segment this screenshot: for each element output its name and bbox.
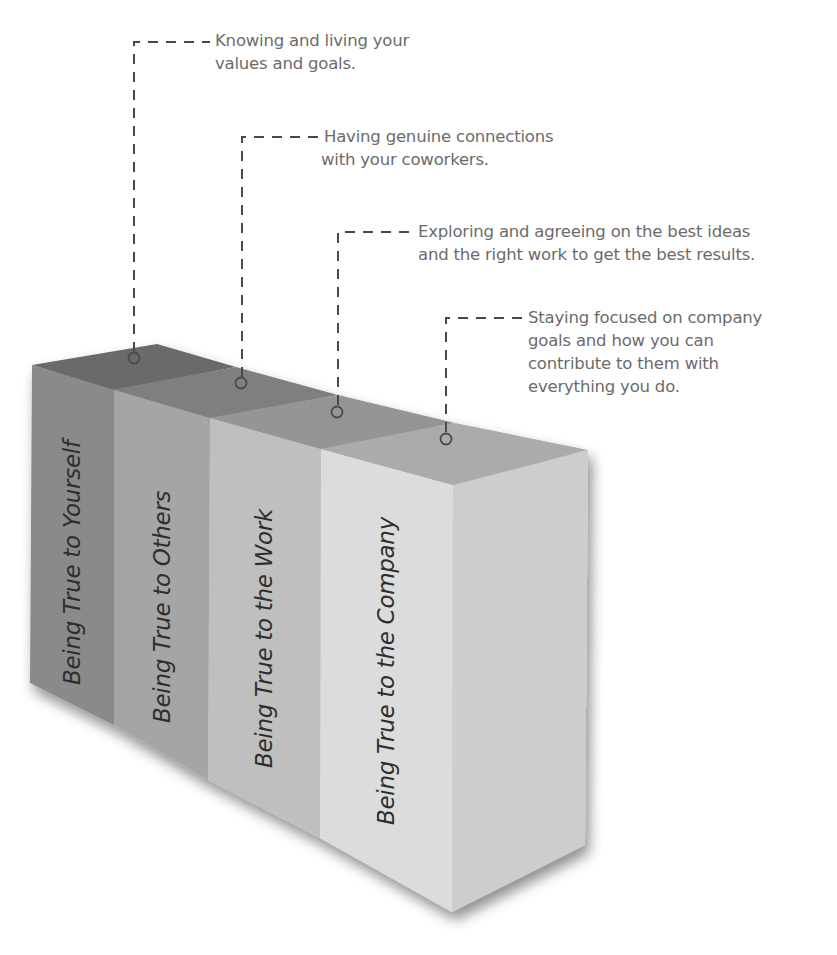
block-2-label: Being True to Others — [149, 490, 175, 723]
callout-2: Having genuine connections with your cow… — [324, 125, 553, 171]
callout-2-line-2: with your coworkers. — [321, 148, 553, 171]
callout-3: Exploring and agreeing on the best ideas… — [418, 220, 755, 266]
callout-2-line-1: Having genuine connections — [324, 125, 553, 148]
callout-4-line-2: goals and how you can — [528, 329, 762, 352]
block-4-label: Being True to the Company — [373, 516, 399, 825]
leader-line-3 — [338, 232, 412, 405]
callout-1-line-1: Knowing and living your — [215, 29, 409, 52]
block-stack — [30, 344, 588, 912]
block-4-side-face — [452, 450, 588, 912]
callout-1: Knowing and living your values and goals… — [215, 29, 409, 75]
callout-3-line-1: Exploring and agreeing on the best ideas — [418, 220, 755, 243]
leader-line-1 — [134, 42, 210, 352]
callout-1-line-2: values and goals. — [215, 52, 409, 75]
callout-4: Staying focused on company goals and how… — [528, 306, 762, 398]
leader-line-4 — [446, 318, 522, 432]
callout-3-line-2: and the right work to get the best resul… — [418, 243, 755, 266]
callout-4-line-3: contribute to them with — [528, 352, 762, 375]
callout-4-line-4: everything you do. — [528, 375, 762, 398]
callout-4-line-1: Staying focused on company — [528, 306, 762, 329]
leader-line-2 — [242, 137, 318, 377]
block-1-label: Being True to Yourself — [59, 437, 85, 685]
block-3-label: Being True to the Work — [251, 507, 277, 768]
